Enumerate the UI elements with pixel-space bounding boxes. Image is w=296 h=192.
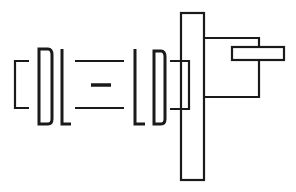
horizontal-bar <box>232 47 284 60</box>
diagram-canvas <box>0 0 296 192</box>
